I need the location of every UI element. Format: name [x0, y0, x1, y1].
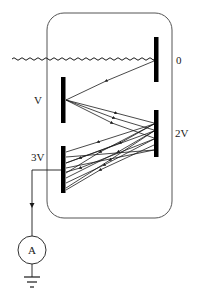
electron-paths — [66, 61, 154, 190]
electrode-anode — [61, 146, 66, 193]
electrode-dynode-1 — [61, 77, 66, 123]
label-cathode-potential: 0 — [176, 54, 182, 66]
label-anode-potential: 3V — [31, 151, 45, 163]
photomultiplier-diagram: A 0 V 2V 3V — [0, 0, 202, 300]
ground-icon — [24, 277, 40, 287]
current-arrow-icon — [30, 203, 35, 208]
tube-enclosure — [47, 13, 172, 218]
label-dynode1-potential: V — [34, 94, 42, 106]
photon-wave-icon — [12, 58, 154, 61]
label-dynode2-potential: 2V — [175, 127, 189, 139]
electrode-cathode — [154, 37, 159, 82]
ammeter-label: A — [28, 244, 36, 256]
electrode-dynode-2 — [154, 110, 159, 157]
